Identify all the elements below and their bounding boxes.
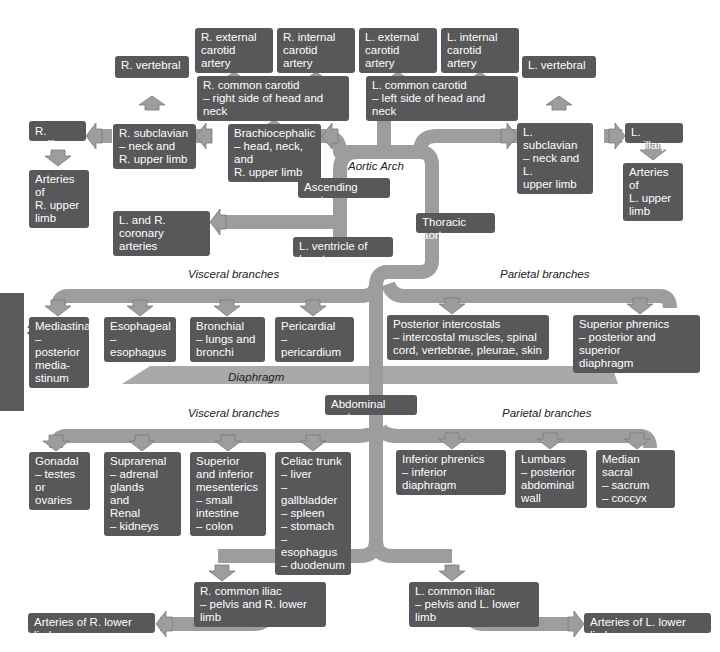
node-l-common-iliac: L. common iliac – pelvis and L. lower li… xyxy=(409,582,539,627)
abdominal-parietal-pipe xyxy=(380,428,650,448)
arrow-l-vertebral xyxy=(546,96,572,110)
arrow-l-subclavian xyxy=(501,123,517,149)
node-ascending-aorta: Ascending aorta xyxy=(298,178,390,198)
abdominal-visceral-pipe xyxy=(56,428,372,448)
thoracic-visceral-label: Visceral branches xyxy=(188,268,279,280)
node-l-ventricle: L. ventricle of heart xyxy=(293,237,393,257)
node-brachiocephalic: Brachiocephalic – head, neck, and R. upp… xyxy=(228,124,321,182)
node-inferior-phrenics: Inferior phrenics – inferior diaphragm xyxy=(396,450,506,495)
diaphragm-label: Diaphragm xyxy=(228,371,284,383)
node-coronary-arteries: L. and R. coronary arteries xyxy=(113,211,210,256)
aortic-arch-pipe xyxy=(350,152,432,470)
node-thoracic-aorta: Thoracic aorta xyxy=(416,213,495,233)
node-lumbars: Lumbars – posterior abdominal wall xyxy=(515,450,587,508)
node-mesenterics: Superior and inferior mesenterics – smal… xyxy=(190,452,266,536)
node-r-axillary: R. axillary xyxy=(29,121,86,141)
node-arteries-r-lower-limb: Arteries of R. lower limb xyxy=(28,613,155,633)
node-suprarenal-renal: Suprarenal – adrenal glands and Renal – … xyxy=(104,452,181,536)
arrow-r-vertebral xyxy=(139,96,165,110)
node-celiac-trunk: Celiac trunk – liver – gallbladder – spl… xyxy=(275,452,351,575)
node-r-external-carotid: R. external carotid artery xyxy=(195,28,273,73)
node-arteries-l-upper-limb: Arteries of L. upper limb xyxy=(623,163,683,221)
node-esophageal: Esophageal – esophagus xyxy=(104,317,176,362)
node-median-sacral: Median sacral – sacrum – coccyx xyxy=(596,450,675,508)
node-r-vertebral: R. vertebral xyxy=(115,56,189,78)
arrow-arteries-l-lower xyxy=(568,611,584,637)
node-l-axillary: L. axillary xyxy=(625,123,683,143)
arrow-r-axillary xyxy=(86,123,102,149)
node-r-internal-carotid: R. internal carotid artery xyxy=(277,28,355,73)
aortic-arch-label: Aortic Arch xyxy=(348,160,404,172)
node-l-internal-carotid: L. internal carotid artery xyxy=(441,28,519,73)
node-superior-phrenics: Superior phrenics – posterior and superi… xyxy=(573,315,700,373)
node-mediastinal: Mediastinal – posterior media- stinum xyxy=(29,317,89,388)
node-r-common-carotid: R. common carotid – right side of head a… xyxy=(197,76,349,121)
node-arteries-l-lower-limb: Arteries of L. lower limb xyxy=(584,613,711,633)
thoracic-parietal-label: Parietal branches xyxy=(500,268,590,280)
iliac-split-pipe xyxy=(376,540,452,556)
arrow-r-subclavian xyxy=(196,123,212,149)
arrow-arteries-r-upper xyxy=(45,150,71,166)
node-abdominal-aorta: Abdominal aorta xyxy=(325,395,417,415)
arrow-arteries-r-lower xyxy=(156,611,172,637)
node-gonadal: Gonadal – testes or ovaries xyxy=(29,452,90,510)
node-r-common-iliac: R. common iliac – pelvis and R. lower li… xyxy=(194,582,326,627)
node-l-common-carotid: L. common carotid – left side of head an… xyxy=(366,76,518,121)
abdominal-parietal-label: Parietal branches xyxy=(502,407,592,419)
thoracic-visceral-pipe xyxy=(58,284,376,308)
arrow-l-axillary xyxy=(609,123,625,149)
node-l-vertebral: L. vertebral xyxy=(522,56,596,78)
node-arteries-r-upper-limb: Arteries of R. upper limb xyxy=(29,170,89,228)
arrow-l-common-iliac xyxy=(439,565,465,581)
node-l-subclavian: L. subclavian – neck and L. upper limb xyxy=(517,123,593,194)
abdominal-visceral-label: Visceral branches xyxy=(188,407,279,419)
node-bronchial: Bronchial – lungs and bronchi xyxy=(190,317,265,362)
node-r-subclavian: R. subclavian – neck and R. upper limb xyxy=(113,124,196,169)
node-pericardial: Pericardial – pericardium xyxy=(275,317,354,362)
node-l-external-carotid: L. external carotid artery xyxy=(359,28,437,73)
node-posterior-intercostals: Posterior intercostals – intercostal mus… xyxy=(387,315,549,360)
arrow-r-common-iliac xyxy=(209,565,235,581)
arrow-coronary xyxy=(210,209,226,235)
